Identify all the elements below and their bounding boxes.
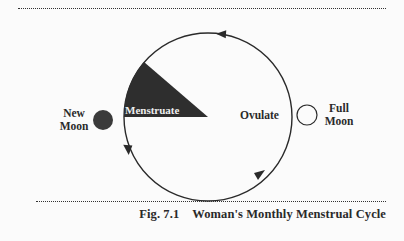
figure-title: Woman's Monthly Menstrual Cycle xyxy=(192,207,386,221)
menstruate-label: Menstruate xyxy=(125,104,179,117)
figure-number: Fig. 7.1 xyxy=(139,207,179,221)
full-moon-label-line1: Full xyxy=(322,102,356,115)
arrow-lower-right-icon xyxy=(254,170,265,180)
new-moon-label: New Moon xyxy=(56,107,92,133)
full-moon-icon xyxy=(297,105,317,125)
full-moon-label: Full Moon xyxy=(322,102,356,128)
full-moon-label-line2: Moon xyxy=(322,115,356,128)
bottom-divider xyxy=(36,201,386,202)
new-moon-label-line1: New xyxy=(56,107,92,120)
figure-caption: Fig. 7.1 Woman's Monthly Menstrual Cycle xyxy=(139,207,386,222)
new-moon-icon xyxy=(93,110,113,130)
new-moon-label-line2: Moon xyxy=(56,120,92,133)
ovulate-label: Ovulate xyxy=(240,109,279,122)
arrow-top-icon xyxy=(216,30,227,39)
